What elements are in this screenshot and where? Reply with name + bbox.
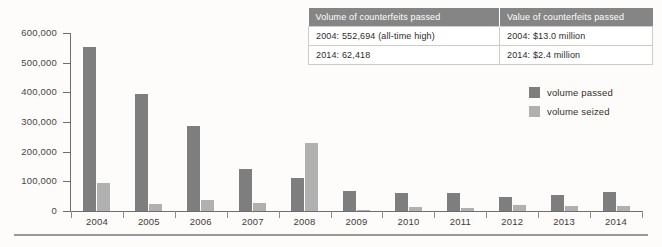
footer-divider xyxy=(14,234,648,236)
bar-2008-volume-seized xyxy=(305,143,318,211)
bar-2012-volume-seized xyxy=(513,205,526,211)
bar-2013-volume-passed xyxy=(551,195,564,211)
bar-2007-volume-passed xyxy=(239,169,252,211)
bar-2005-volume-passed xyxy=(135,94,148,211)
bar-2004-volume-passed xyxy=(83,47,96,211)
bar-2007-volume-seized xyxy=(253,203,266,211)
x-axis-label-2004: 2004 xyxy=(71,216,123,227)
table-cell-value-2004: 2004: $13.0 million xyxy=(500,27,653,46)
bar-2013-volume-seized xyxy=(565,206,578,211)
bar-2014-volume-passed xyxy=(603,192,616,211)
bar-2010-volume-passed xyxy=(395,193,408,211)
table-row: 2014: 62,418 2014: $2.4 million xyxy=(309,46,653,65)
bar-2004-volume-seized xyxy=(97,183,110,211)
bar-2011-volume-seized xyxy=(461,208,474,211)
x-axis-label-2006: 2006 xyxy=(175,216,227,227)
legend-label-seized: volume seized xyxy=(547,106,610,117)
table-header-value: Value of counterfeits passed xyxy=(500,8,653,27)
table-cell-value-2014: 2014: $2.4 million xyxy=(500,46,653,65)
chart-legend: volume passed volume seized xyxy=(529,84,613,122)
legend-swatch-icon-seized xyxy=(529,106,540,117)
counterfeit-summary-table: Volume of counterfeits passed Value of c… xyxy=(308,8,653,65)
bar-2011-volume-passed xyxy=(447,193,460,211)
chart-page: 600,000500,000400,000300,000200,000100,0… xyxy=(0,0,662,247)
legend-swatch-icon-passed xyxy=(529,87,540,98)
x-axis-label-2012: 2012 xyxy=(486,216,538,227)
bar-2014-volume-seized xyxy=(617,206,630,211)
legend-item-volume-passed: volume passed xyxy=(529,84,613,100)
bar-2012-volume-passed xyxy=(499,197,512,211)
x-axis-label-2010: 2010 xyxy=(382,216,434,227)
bar-2009-volume-seized xyxy=(357,210,370,211)
x-axis-label-2009: 2009 xyxy=(331,216,383,227)
x-axis-label-2011: 2011 xyxy=(434,216,486,227)
x-axis-label-2007: 2007 xyxy=(227,216,279,227)
bar-2005-volume-seized xyxy=(149,204,162,211)
x-axis-label-2008: 2008 xyxy=(279,216,331,227)
table-header-volume: Volume of counterfeits passed xyxy=(309,8,500,27)
bar-2006-volume-passed xyxy=(187,126,200,211)
x-axis-label-2005: 2005 xyxy=(123,216,175,227)
bar-2006-volume-seized xyxy=(201,200,214,211)
table-header-row: Volume of counterfeits passed Value of c… xyxy=(309,8,653,27)
legend-label-passed: volume passed xyxy=(547,87,613,98)
table-cell-volume-2014: 2014: 62,418 xyxy=(309,46,500,65)
bar-2009-volume-passed xyxy=(343,191,356,211)
table-row: 2004: 552,694 (all-time high) 2004: $13.… xyxy=(309,27,653,46)
table-cell-volume-2004: 2004: 552,694 (all-time high) xyxy=(309,27,500,46)
x-axis-label-2014: 2014 xyxy=(590,216,642,227)
legend-item-volume-seized: volume seized xyxy=(529,103,613,119)
bar-2010-volume-seized xyxy=(409,207,422,211)
x-axis-label-2013: 2013 xyxy=(538,216,590,227)
bar-2008-volume-passed xyxy=(291,178,304,211)
